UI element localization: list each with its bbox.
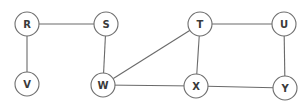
node-label: R <box>23 19 31 30</box>
node-w: W <box>91 73 115 97</box>
edges-layer <box>27 24 285 88</box>
node-s: S <box>94 12 118 36</box>
node-x: X <box>184 74 208 98</box>
node-v: V <box>15 72 39 96</box>
node-t: T <box>188 12 212 36</box>
edge-w-t <box>103 24 200 85</box>
node-label: Y <box>280 83 289 94</box>
node-label: W <box>97 80 108 91</box>
node-label: V <box>23 79 31 90</box>
node-u: U <box>272 12 296 36</box>
node-label: U <box>280 19 288 30</box>
edge-x-y <box>196 86 285 88</box>
node-label: T <box>197 19 204 30</box>
node-r: R <box>15 12 39 36</box>
node-label: S <box>102 19 109 30</box>
edge-w-x <box>103 85 196 86</box>
node-y: Y <box>273 76 297 100</box>
node-label: X <box>192 81 200 92</box>
graph-diagram: RSTUVWXY <box>0 0 306 106</box>
